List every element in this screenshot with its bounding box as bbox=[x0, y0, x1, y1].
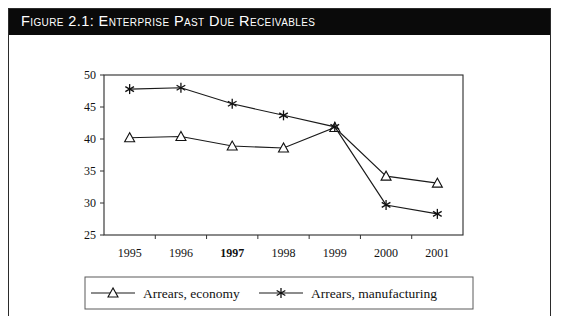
x-axis-ticks bbox=[155, 235, 411, 239]
marker-asterisk bbox=[228, 99, 237, 109]
marker-open-triangle bbox=[176, 131, 186, 140]
figure-title: Figure 2.1: Enterprise Past Due Receivab… bbox=[21, 13, 315, 29]
y-tick-label: 50 bbox=[84, 68, 96, 82]
plot-frame bbox=[104, 75, 463, 235]
figure-title-bar: Figure 2.1: Enterprise Past Due Receivab… bbox=[9, 9, 550, 35]
y-tick-label: 25 bbox=[84, 228, 96, 242]
marker-asterisk bbox=[279, 110, 288, 120]
x-tick-label: 2001 bbox=[425, 246, 449, 260]
figure-container: Figure 2.1: Enterprise Past Due Receivab… bbox=[8, 8, 551, 316]
y-tick-label: 45 bbox=[84, 100, 96, 114]
legend-label: Arrears, economy bbox=[143, 286, 240, 301]
y-tick-label: 40 bbox=[84, 132, 96, 146]
y-tick-label: 35 bbox=[84, 164, 96, 178]
x-tick-label: 1996 bbox=[169, 246, 193, 260]
y-tick-label: 30 bbox=[84, 196, 96, 210]
line-chart: 253035404550 199519961997199819992000200… bbox=[9, 35, 550, 316]
series-line bbox=[130, 127, 438, 183]
legend-label: Arrears, manufacturing bbox=[311, 286, 437, 301]
bottom-caption bbox=[10, 322, 410, 332]
x-tick-label: 1995 bbox=[118, 246, 142, 260]
y-axis-ticks: 253035404550 bbox=[84, 68, 104, 242]
x-tick-label: 2000 bbox=[374, 246, 398, 260]
series-1 bbox=[125, 122, 443, 187]
x-tick-label: 1999 bbox=[323, 246, 347, 260]
x-tick-label: 1998 bbox=[272, 246, 296, 260]
x-axis-labels: 1995199619971998199920002001 bbox=[118, 246, 450, 260]
x-tick-label: 1997 bbox=[220, 246, 244, 260]
chart-area: 253035404550 199519961997199819992000200… bbox=[9, 35, 550, 316]
series-layer bbox=[125, 83, 443, 219]
